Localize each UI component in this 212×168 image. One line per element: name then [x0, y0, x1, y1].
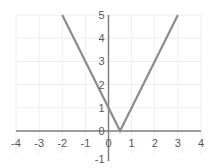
- y-tick-label: 4: [98, 32, 104, 44]
- y-tick-label: 2: [98, 79, 104, 91]
- chart: -4-3-2-101234 -1012345: [0, 0, 212, 168]
- x-tick-label: 4: [198, 137, 204, 149]
- x-tick-label: -4: [11, 137, 21, 149]
- x-tick-label: 0: [105, 137, 111, 149]
- plot-series: [62, 15, 178, 131]
- y-tick-label: 1: [98, 102, 104, 114]
- y-tick-labels: -1012345: [95, 9, 105, 165]
- x-tick-label: -3: [34, 137, 44, 149]
- x-tick-label: 2: [152, 137, 158, 149]
- x-tick-label: -1: [80, 137, 90, 149]
- x-tick-label: -2: [57, 137, 67, 149]
- y-tick-label: 5: [98, 9, 104, 21]
- series-line: [62, 15, 178, 131]
- y-tick-label: 0: [98, 125, 104, 137]
- x-tick-labels: -4-3-2-101234: [11, 137, 204, 149]
- y-tick-label: 3: [98, 55, 104, 67]
- y-tick-label: -1: [95, 153, 105, 165]
- x-tick-label: 1: [129, 137, 135, 149]
- x-tick-label: 3: [175, 137, 181, 149]
